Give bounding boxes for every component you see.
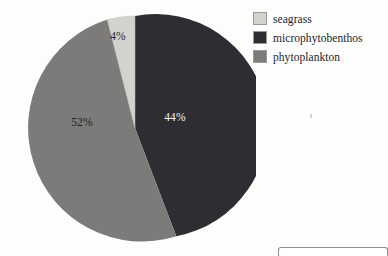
scan-speck <box>310 114 312 118</box>
pie-label-phytoplankton: 52% <box>71 116 93 128</box>
legend-swatch-microphytobenthos <box>253 31 267 44</box>
legend-swatch-phytoplankton <box>253 50 267 63</box>
legend-label-seagrass: seagrass <box>273 13 312 25</box>
pie-chart-svg: 44% 52% 4% <box>0 0 256 256</box>
pie-label-seagrass: 4% <box>110 30 126 42</box>
legend-item-phytoplankton[interactable]: phytoplankton <box>253 47 388 66</box>
legend-label-microphytobenthos: microphytobenthos <box>273 32 363 44</box>
legend-item-seagrass[interactable]: seagrass <box>253 9 388 28</box>
legend-label-phytoplankton: phytoplankton <box>273 51 340 63</box>
legend-item-microphytobenthos[interactable]: microphytobenthos <box>253 28 388 47</box>
pie-label-microphytobenthos: 44% <box>164 111 186 123</box>
pie-chart-figure: 44% 52% 4% <box>0 0 256 256</box>
partial-box-bottom-right <box>278 247 388 256</box>
legend-swatch-seagrass <box>253 12 267 25</box>
chart-legend: seagrass microphytobenthos phytoplankton <box>253 9 388 66</box>
